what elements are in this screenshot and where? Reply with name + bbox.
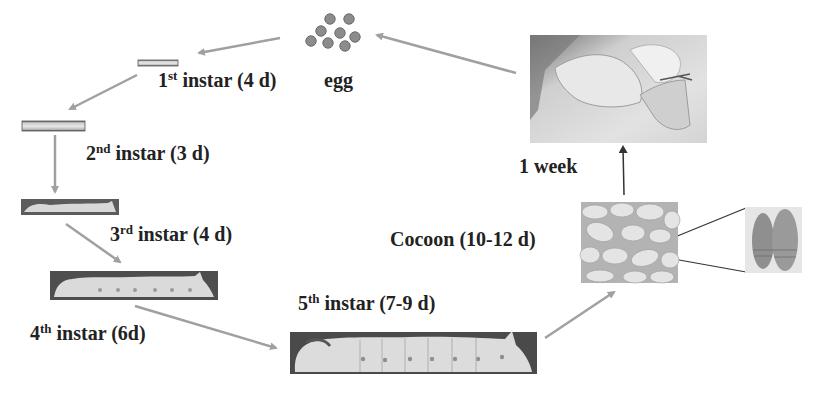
egg [350, 32, 360, 42]
ordinal-suffix: st [168, 68, 177, 83]
arrow-moth-to-egg [377, 35, 516, 73]
instar-text: instar (3 d) [110, 142, 209, 164]
egg-cluster [306, 14, 360, 51]
label-instar-2: 2nd instar (3 d) [86, 143, 210, 163]
egg [316, 26, 326, 36]
label-instar-5: 5th instar (7-9 d) [298, 293, 435, 313]
arrow-instar-4-to-5 [135, 306, 276, 348]
instar-number: 2 [86, 142, 96, 164]
instar-text: instar (4 d) [177, 69, 276, 91]
ordinal-suffix: nd [96, 141, 110, 156]
arrow-egg-to-instar-1 [199, 38, 280, 53]
egg [340, 41, 350, 51]
egg [323, 38, 333, 48]
life-cycle-diagram: 1st instar (4 d) egg 2nd instar (3 d) 3r… [0, 0, 819, 394]
first-instar-larva-photo [138, 60, 178, 66]
egg [335, 28, 345, 38]
ordinal-suffix: rd [120, 222, 133, 237]
third-instar-larva-photo [21, 199, 119, 215]
pupae-detail-photo [745, 207, 802, 273]
egg [325, 14, 335, 24]
arrow-cocoon-to-moth [623, 147, 624, 195]
instar-text: instar (4 d) [133, 223, 232, 245]
egg [344, 14, 354, 24]
fifth-instar-larva-photo [290, 331, 537, 374]
label-cocoon: Cocoon (10-12 d) [390, 229, 536, 249]
second-instar-larva-photo [22, 121, 85, 131]
instar-text: instar (6d) [52, 322, 146, 344]
label-moth: 1 week [519, 156, 577, 176]
ordinal-suffix: th [308, 291, 320, 306]
instar-number: 4 [30, 322, 40, 344]
egg [306, 36, 316, 46]
zoom-connector-bottom [668, 258, 746, 272]
arrow-instar-1-to-2 [70, 75, 137, 109]
ordinal-suffix: th [40, 321, 52, 336]
cocoon-cluster-photo [580, 202, 680, 283]
instar-text: instar (7-9 d) [320, 292, 436, 314]
label-instar-3: 3rd instar (4 d) [110, 224, 232, 244]
adult-moth-photo [530, 35, 707, 143]
label-instar-1: 1st instar (4 d) [158, 70, 276, 90]
instar-number: 1 [158, 69, 168, 91]
label-egg: egg [324, 70, 353, 90]
fourth-instar-larva-photo [50, 271, 218, 300]
label-instar-4: 4th instar (6d) [30, 323, 146, 343]
zoom-connector-top [675, 208, 746, 237]
instar-number: 5 [298, 292, 308, 314]
arrow-instar-5-to-cocoon [545, 292, 614, 338]
instar-number: 3 [110, 223, 120, 245]
